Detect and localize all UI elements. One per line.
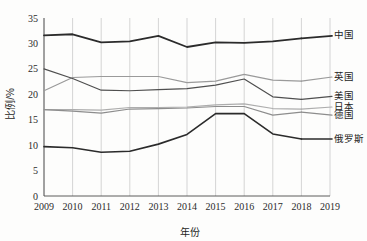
series-line-3: [44, 104, 301, 110]
y-tick-25: 25: [28, 63, 38, 74]
series-label-1: 英国: [334, 71, 354, 82]
series-label-2: 美国: [334, 90, 354, 101]
x-tick-2014: 2014: [177, 201, 197, 212]
y-tick-20: 20: [28, 89, 38, 100]
x-tick-2010: 2010: [63, 201, 83, 212]
series-leader-0: [301, 36, 332, 39]
y-tick-30: 30: [28, 38, 38, 49]
x-tick-2015: 2015: [206, 201, 226, 212]
x-axis-title: 年份: [180, 226, 200, 238]
x-tick-2011: 2011: [91, 201, 111, 212]
series-leader-4: [301, 112, 332, 115]
series-line-0: [44, 34, 301, 47]
series-label-4: 德国: [334, 109, 354, 120]
y-tick-35: 35: [28, 13, 38, 24]
series-leader-2: [301, 96, 332, 99]
y-axis-title: 比例/%: [4, 88, 16, 120]
series-leader-3: [301, 107, 332, 109]
x-tick-2016: 2016: [234, 201, 254, 212]
chart-canvas: 05101520253035 2009201020112012201320142…: [0, 0, 367, 241]
x-tick-2012: 2012: [120, 201, 140, 212]
x-tick-2009: 2009: [34, 201, 54, 212]
series-leader-1: [301, 77, 332, 81]
x-tick-2018: 2018: [291, 201, 311, 212]
y-tick-0: 0: [33, 191, 38, 202]
series-label-5: 俄罗斯: [334, 133, 364, 144]
y-tick-15: 15: [28, 114, 38, 125]
series-label-0: 中国: [334, 29, 354, 40]
y-tick-5: 5: [33, 165, 38, 176]
y-tick-10: 10: [28, 140, 38, 151]
y-tick-labels: 05101520253035: [28, 13, 38, 202]
series-line-2: [44, 69, 301, 100]
line-chart: 05101520253035 2009201020112012201320142…: [0, 0, 367, 241]
x-tick-2013: 2013: [148, 201, 168, 212]
series-line-4: [44, 106, 301, 115]
x-tick-2017: 2017: [263, 201, 283, 212]
chart-series: [44, 34, 332, 152]
series-line-5: [44, 114, 301, 153]
x-tick-labels: 2009201020112012201320142015201620172018…: [34, 201, 340, 212]
x-tick-2019: 2019: [320, 201, 340, 212]
series-labels: 中国英国美国日本德国俄罗斯: [334, 29, 364, 143]
